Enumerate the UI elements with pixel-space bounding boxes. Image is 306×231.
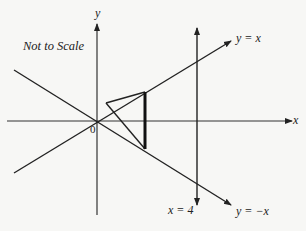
line-y-equals-neg-x [14,70,231,205]
label-y-equals-neg-x: y = −x [236,205,269,217]
line-y-equals-x [14,41,231,173]
label-x-equals-4: x = 4 [168,204,193,216]
label-y-equals-x: y = x [236,32,261,44]
x-axis-label: x [293,114,298,126]
triangle-side-diagonal [106,103,145,149]
y-axis-label: y [95,7,100,19]
not-to-scale-note: Not to Scale [23,40,84,53]
coordinate-diagram: Not to Scale y x 0 y = x y = −x x = 4 [0,0,306,231]
origin-label: 0 [90,124,96,135]
